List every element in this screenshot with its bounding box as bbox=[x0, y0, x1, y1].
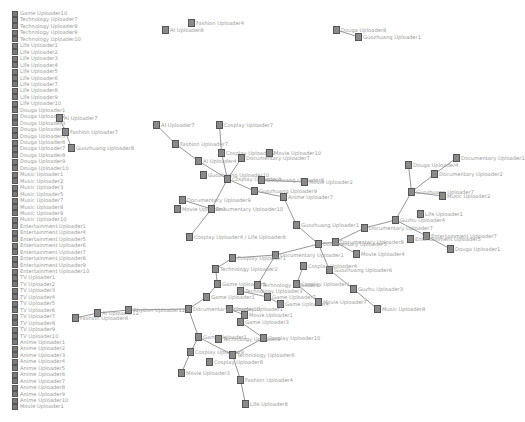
node-square-icon bbox=[392, 216, 399, 224]
node-label: Documentary Uploader9 bbox=[187, 197, 251, 203]
node-square-icon bbox=[212, 265, 219, 273]
graph-node[interactable]: Cosplay Uploader10 bbox=[260, 334, 320, 342]
node-square-icon bbox=[229, 254, 236, 262]
node-label: Movie Uploader2 bbox=[309, 179, 353, 185]
graph-node[interactable]: Rhythm Uploader12 bbox=[125, 306, 185, 314]
node-label: Music Uploader8 bbox=[382, 306, 425, 312]
graph-node[interactable]: Documentary Uploader10 bbox=[208, 205, 283, 213]
node-label: Guozhuang Uploader1 bbox=[363, 34, 421, 40]
node-square-icon bbox=[431, 170, 438, 178]
graph-node[interactable]: Fashion Uploader8 bbox=[72, 314, 128, 322]
graph-node[interactable]: Fashion Uploader7 bbox=[172, 140, 228, 148]
node-square-icon bbox=[195, 157, 202, 165]
node-label: Douga Uploader1 bbox=[455, 246, 500, 252]
graph-node[interactable]: AI Uploader7 bbox=[153, 121, 195, 129]
graph-node[interactable]: Game Uploader3 bbox=[237, 318, 289, 326]
node-square-icon bbox=[333, 26, 340, 34]
node-square-icon bbox=[125, 306, 132, 314]
graph-node[interactable]: AI Uploader4 bbox=[195, 157, 237, 165]
graph-node[interactable]: Entertainment Uploader5 bbox=[407, 235, 481, 243]
node-square-icon bbox=[251, 187, 258, 195]
graph-node[interactable]: Documentary Uploader9 bbox=[179, 196, 251, 204]
node-square-icon bbox=[355, 33, 362, 41]
graph-node[interactable]: Life Uploader8 bbox=[242, 400, 288, 408]
graph-node[interactable]: Movie Uploader7 bbox=[315, 298, 367, 306]
node-square-icon bbox=[293, 221, 300, 229]
node-square-icon bbox=[237, 376, 244, 384]
graph-node[interactable]: AI Uploader8 bbox=[162, 26, 204, 34]
graph-node[interactable]: Music Uploader8 bbox=[374, 305, 425, 313]
node-square-icon bbox=[229, 351, 236, 359]
graph-node[interactable]: Guozhuang Uploader1 bbox=[355, 33, 421, 41]
graph-node[interactable]: Douga Uploader4 bbox=[405, 161, 458, 169]
graph-node[interactable]: Movie Uploader4 bbox=[353, 250, 405, 258]
graph-node[interactable]: Music Uploader2 bbox=[439, 192, 490, 200]
graph-node[interactable]: Technology Uploader2 bbox=[212, 265, 278, 273]
node-square-icon bbox=[407, 235, 414, 243]
node-square-icon bbox=[206, 358, 213, 366]
graph-node[interactable]: Douga Uploader1 bbox=[447, 245, 500, 253]
node-label: AI Uploader7 bbox=[64, 115, 98, 121]
node-label: Documentary Uploader5 bbox=[323, 241, 387, 247]
graph-node[interactable]: Cosplay Uploader4 bbox=[300, 262, 357, 270]
node-label: Guozhuang Uploader1 bbox=[301, 222, 359, 228]
graph-node[interactable]: Fashion Uploader4 bbox=[237, 376, 293, 384]
graph-node[interactable]: Guzhu Uploader4 bbox=[392, 216, 445, 224]
graph-node[interactable]: Guozhuang Uploader8 bbox=[68, 144, 134, 152]
node-label: Guozhuang Uploader8 bbox=[76, 145, 134, 151]
node-label: Life Uploader8 bbox=[250, 401, 288, 407]
node-square-icon bbox=[56, 114, 63, 122]
graph-node[interactable]: Cosplay Uploader4 / Life Uploader8 bbox=[186, 233, 286, 241]
node-square-icon bbox=[242, 400, 249, 408]
node-label: Documentary Uploader10 bbox=[216, 206, 283, 212]
node-square-icon bbox=[208, 205, 215, 213]
graph-node[interactable]: Documentary Uploader7 bbox=[361, 224, 433, 232]
node-square-icon bbox=[408, 188, 415, 196]
node-square-icon bbox=[214, 280, 221, 288]
node-square-icon bbox=[186, 233, 193, 241]
node-label: Cosplay Uploader4 bbox=[308, 263, 357, 269]
node-label: Movie Uploader10 bbox=[274, 150, 321, 156]
graph-node[interactable]: Movie Uploader3 bbox=[178, 369, 230, 377]
graph-node[interactable]: Documentary Uploader1 bbox=[453, 154, 525, 162]
node-square-icon bbox=[172, 140, 179, 148]
graph-node[interactable]: Cosplay Uploader7 bbox=[216, 121, 273, 129]
graph-node[interactable]: Guozhuang Uploader1 bbox=[293, 221, 359, 229]
node-square-icon bbox=[216, 121, 223, 129]
graph-node[interactable]: Movie Uploader2 bbox=[301, 178, 353, 186]
node-label: Douga Uploader4 bbox=[413, 162, 458, 168]
node-square-icon bbox=[195, 333, 202, 341]
node-label: Technology Uploader6 bbox=[237, 352, 295, 358]
graph-node[interactable]: Cosplay Uploader1 bbox=[229, 254, 286, 262]
node-square-icon bbox=[266, 149, 273, 157]
node-label: Documentary Uploader1 bbox=[461, 155, 525, 161]
node-square-icon bbox=[179, 196, 186, 204]
node-square-icon bbox=[301, 178, 308, 186]
node-square-icon bbox=[405, 161, 412, 169]
node-square-icon bbox=[447, 245, 454, 253]
graph-node[interactable]: Documentary Uploader10 bbox=[185, 305, 260, 313]
node-label: Cosplay Uploader7 bbox=[224, 122, 273, 128]
graph-node[interactable]: Technology Uploader6 bbox=[229, 351, 295, 359]
node-square-icon bbox=[68, 144, 75, 152]
graph-node[interactable]: Fashion Uploader7 bbox=[62, 128, 118, 136]
graph-node[interactable]: AI Uploader7 bbox=[56, 114, 98, 122]
node-label: AI Uploader8 bbox=[170, 27, 204, 33]
graph-node[interactable]: Movie Uploader10 bbox=[266, 149, 321, 157]
node-label: Guzhu Uploader4 bbox=[400, 217, 445, 223]
graph-node[interactable]: Documentary Uploader5 bbox=[315, 240, 387, 248]
node-square-icon bbox=[374, 305, 381, 313]
graph-node[interactable]: Documentary Uploader2 bbox=[431, 170, 503, 178]
node-label: Cosplay Uploader4 / Life Uploader8 bbox=[194, 234, 286, 240]
node-label: Technology Uploader2 bbox=[220, 266, 278, 272]
graph-node[interactable]: Guzhu Uploader3 bbox=[350, 285, 403, 293]
node-square-icon bbox=[185, 305, 192, 313]
graph-node[interactable]: Cosplay Uploader8 bbox=[206, 358, 263, 366]
node-label: AI Uploader4 bbox=[203, 158, 237, 164]
node-label: Cosplay Uploader8 bbox=[214, 359, 263, 365]
legend-item[interactable]: Movie Uploader1 bbox=[12, 403, 64, 410]
node-square-icon bbox=[200, 171, 207, 179]
graph-node[interactable]: Anime Uploader7 bbox=[280, 193, 333, 201]
node-square-icon bbox=[453, 154, 460, 162]
node-label: Movie Uploader7 bbox=[323, 299, 367, 305]
